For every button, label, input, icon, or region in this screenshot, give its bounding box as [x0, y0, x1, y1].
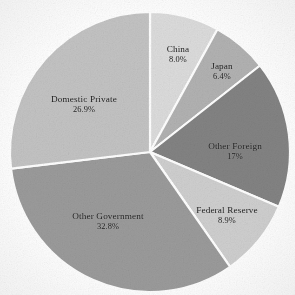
- slice-label-value: 26.9%: [51, 106, 117, 116]
- slice-label-value: 8.9%: [196, 217, 258, 227]
- slice-label-name: Japan: [211, 61, 233, 72]
- pie-chart-figure: China8.0%Japan6.4%Other Foreign17%Federa…: [0, 0, 295, 295]
- slice-label-value: 6.4%: [211, 73, 233, 83]
- slice-label-name: Other Foreign: [208, 141, 262, 152]
- pie-slice-domestic-private[interactable]: [10, 12, 150, 169]
- slice-label-japan: Japan6.4%: [211, 61, 233, 82]
- slice-label-name: China: [167, 44, 190, 55]
- slice-label-other-government: Other Government32.8%: [72, 211, 144, 232]
- slice-label-value: 8.0%: [167, 56, 190, 66]
- slice-label-value: 17%: [208, 153, 262, 163]
- slice-label-name: Federal Reserve: [196, 205, 258, 216]
- slice-label-name: Domestic Private: [51, 94, 117, 105]
- slice-label-other-foreign: Other Foreign17%: [208, 141, 262, 162]
- slice-label-name: Other Government: [72, 211, 144, 222]
- slice-label-value: 32.8%: [72, 223, 144, 233]
- slice-label-china: China8.0%: [167, 44, 190, 65]
- slice-label-domestic-private: Domestic Private26.9%: [51, 94, 117, 115]
- slice-label-federal-reserve: Federal Reserve8.9%: [196, 205, 258, 226]
